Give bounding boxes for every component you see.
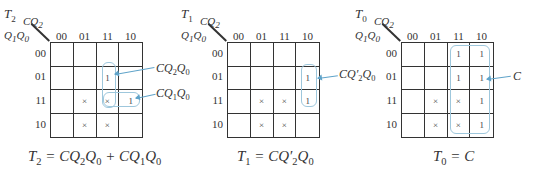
equation: T2 = CQ2Q0 + CQ1Q0: [28, 148, 161, 167]
cell: [228, 43, 251, 67]
kmap-grid: 1 × × 1 × ×: [50, 42, 143, 138]
row-var-label: Q1Q0: [4, 29, 29, 44]
row-header: 01: [28, 70, 46, 82]
column-header: 10: [296, 30, 319, 42]
cell: [119, 43, 142, 67]
cell: [274, 67, 297, 91]
cell: ×: [274, 114, 297, 138]
row-header: 01: [205, 70, 223, 82]
column-header: 00: [401, 30, 424, 42]
cell: [296, 43, 319, 67]
column-var-label: CQ2: [23, 15, 43, 30]
cell: [228, 67, 251, 91]
cell: [402, 114, 425, 138]
kmap-t1: T1 CQ2 Q1Q0 00 01 11 10 00 01 11 10 1 × …: [177, 0, 352, 190]
cell: ×: [425, 90, 448, 114]
cell: [119, 114, 142, 138]
row-header: 01: [379, 70, 397, 82]
cell: [74, 67, 97, 91]
cell: ×: [74, 114, 97, 138]
row-header: 11: [205, 94, 223, 106]
cell: [274, 43, 297, 67]
arrow-icon: [136, 94, 156, 99]
equation: T1 = CQ′2Q0: [237, 148, 314, 167]
row-var-label: Q1Q0: [355, 29, 380, 44]
cell: ×: [251, 114, 274, 138]
arrow-icon: [487, 76, 511, 80]
kmap-t2: T2 CQ2 Q1Q0 00 01 11 10 00 01 11 10 1 × …: [0, 0, 175, 190]
row-header: 00: [379, 47, 397, 59]
equation: T0 = C: [433, 148, 474, 167]
cell: ×: [74, 90, 97, 114]
cell: ×: [425, 114, 448, 138]
cell: [51, 90, 74, 114]
kmap-t0: T0 CQ2 Q1Q0 00 01 11 10 00 01 11 10 1 1 …: [351, 0, 526, 190]
cell: [296, 114, 319, 138]
cell: [251, 67, 274, 91]
column-header: 11: [273, 30, 296, 42]
cell: [228, 114, 251, 138]
column-var-label: CQ2: [374, 15, 394, 30]
row-var-label: Q1Q0: [181, 29, 206, 44]
cell: ×: [274, 90, 297, 114]
column-header: 01: [73, 30, 96, 42]
cell: [51, 114, 74, 138]
cell: [51, 67, 74, 91]
column-header: 00: [227, 30, 250, 42]
group-label: C: [513, 69, 521, 84]
output-var-label: T0: [355, 6, 367, 24]
row-header: 11: [379, 94, 397, 106]
column-header: 01: [424, 30, 447, 42]
row-header: 00: [205, 47, 223, 59]
column-header: 11: [447, 30, 470, 42]
row-header: 10: [379, 118, 397, 130]
column-var-label: CQ2: [200, 15, 220, 30]
group-loop: [450, 45, 490, 134]
cell: ×: [97, 114, 120, 138]
column-header: 11: [96, 30, 119, 42]
row-header: 11: [28, 94, 46, 106]
output-var-label: T2: [4, 6, 16, 24]
cell: [228, 90, 251, 114]
cell: [402, 90, 425, 114]
column-header: 10: [119, 30, 142, 42]
cell: [402, 67, 425, 91]
cell: [425, 67, 448, 91]
column-header: 10: [470, 30, 493, 42]
cell: [51, 43, 74, 67]
column-header: 00: [50, 30, 73, 42]
cell: [74, 43, 97, 67]
row-header: 00: [28, 47, 46, 59]
cell: [425, 43, 448, 67]
cell: [251, 43, 274, 67]
cell: ×: [251, 90, 274, 114]
group-loop: [301, 64, 317, 107]
row-header: 10: [205, 118, 223, 130]
row-header: 10: [28, 118, 46, 130]
arrow-icon: [318, 75, 338, 79]
output-var-label: T1: [181, 6, 193, 24]
cell: [402, 43, 425, 67]
column-header: 01: [250, 30, 273, 42]
